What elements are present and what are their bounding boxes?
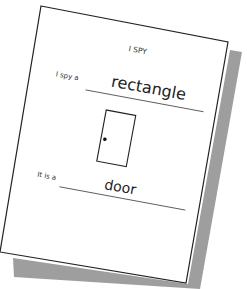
worksheet-paper: [0, 6, 228, 283]
worksheet-image: I SPY I spy a rectangle It is a door: [0, 0, 247, 289]
